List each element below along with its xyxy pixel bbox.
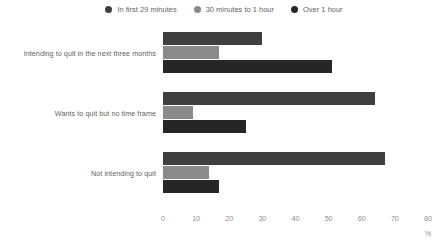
circle-swatch-icon bbox=[105, 6, 112, 13]
bar-in-first-29-minutes[interactable] bbox=[163, 32, 262, 45]
bar-chart: In first 29 minutes 30 minutes to 1 hour… bbox=[0, 0, 448, 251]
x-axis: 0 10 20 30 40 50 60 70 80 % bbox=[163, 215, 428, 251]
legend-item-label: Over 1 hour bbox=[303, 6, 343, 13]
legend-item-over-1-hour[interactable]: Over 1 hour bbox=[291, 6, 343, 13]
legend-item-label: In first 29 minutes bbox=[117, 6, 176, 13]
chart-legend: In first 29 minutes 30 minutes to 1 hour… bbox=[0, 6, 448, 13]
bar-30-minutes-to-1-hour[interactable] bbox=[163, 106, 193, 119]
bar-over-1-hour[interactable] bbox=[163, 60, 332, 73]
x-axis-tick: 40 bbox=[292, 215, 300, 222]
bar-30-minutes-to-1-hour[interactable] bbox=[163, 166, 209, 179]
bar-30-minutes-to-1-hour[interactable] bbox=[163, 46, 219, 59]
bar-group: Intending to quit in the next three mont… bbox=[0, 30, 448, 76]
bar-over-1-hour[interactable] bbox=[163, 120, 246, 133]
bar-group: Wants to quit but no time frame bbox=[0, 90, 448, 136]
bar-set bbox=[163, 92, 428, 134]
x-axis-tick: 80 bbox=[424, 215, 432, 222]
bar-set bbox=[163, 152, 428, 194]
bar-over-1-hour[interactable] bbox=[163, 180, 219, 193]
x-axis-tick: 0 bbox=[161, 215, 165, 222]
legend-item-in-first-29-minutes[interactable]: In first 29 minutes bbox=[105, 6, 176, 13]
x-axis-tick: 60 bbox=[358, 215, 366, 222]
legend-item-label: 30 minutes to 1 hour bbox=[206, 6, 274, 13]
bar-set bbox=[163, 32, 428, 74]
bar-in-first-29-minutes[interactable] bbox=[163, 152, 385, 165]
x-axis-tick: 50 bbox=[325, 215, 333, 222]
category-label: Not intending to quit bbox=[91, 150, 156, 196]
circle-swatch-icon bbox=[194, 6, 201, 13]
legend-item-30-minutes-to-1-hour[interactable]: 30 minutes to 1 hour bbox=[194, 6, 274, 13]
x-axis-tick: 20 bbox=[225, 215, 233, 222]
x-axis-tick: 30 bbox=[258, 215, 266, 222]
x-axis-tick: 70 bbox=[391, 215, 399, 222]
bar-group: Not intending to quit bbox=[0, 150, 448, 196]
plot-area: Intending to quit in the next three mont… bbox=[0, 30, 448, 215]
bar-in-first-29-minutes[interactable] bbox=[163, 92, 375, 105]
x-axis-tick: 10 bbox=[192, 215, 200, 222]
circle-swatch-icon bbox=[291, 6, 298, 13]
x-axis-unit-label: % bbox=[425, 230, 431, 237]
category-label: Wants to quit but no time frame bbox=[55, 90, 156, 136]
category-label: Intending to quit in the next three mont… bbox=[24, 30, 156, 76]
